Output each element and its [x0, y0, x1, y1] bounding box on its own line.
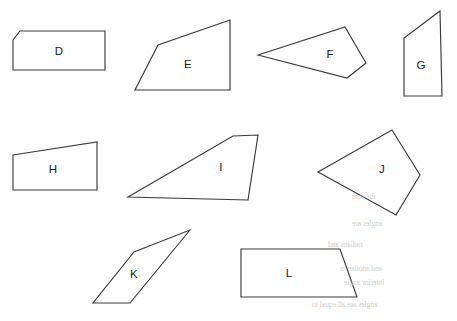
shape-f-label: F — [326, 48, 333, 60]
shape-j-outline[interactable] — [318, 130, 420, 215]
shape-j-label: J — [379, 163, 385, 175]
shape-g-label: G — [416, 59, 425, 71]
shape-g-outline[interactable] — [404, 11, 442, 96]
shape-group-d[interactable]: D — [13, 31, 105, 70]
shape-group-i[interactable]: I — [128, 135, 258, 200]
shape-group-k[interactable]: K — [93, 230, 190, 303]
shape-i-outline[interactable] — [128, 135, 258, 200]
shape-group-g[interactable]: G — [404, 11, 442, 96]
shape-h-label: H — [49, 163, 58, 175]
shape-group-j[interactable]: J — [318, 130, 420, 215]
shape-e-outline[interactable] — [135, 20, 230, 90]
shape-group-l[interactable]: L — [241, 249, 357, 297]
worksheet-page: D E F G H I J K — [0, 0, 457, 321]
shape-i-label: I — [219, 161, 222, 173]
shape-k-label: K — [130, 268, 138, 280]
shape-group-e[interactable]: E — [135, 20, 230, 90]
shape-k-outline[interactable] — [93, 230, 190, 303]
shape-f-outline[interactable] — [258, 27, 366, 78]
shape-l-outline[interactable] — [241, 249, 357, 297]
shape-canvas: D E F G H I J K — [0, 0, 457, 321]
shape-d-label: D — [55, 45, 64, 57]
shape-l-label: L — [286, 267, 293, 279]
shape-group-h[interactable]: H — [13, 142, 97, 190]
shape-e-label: E — [184, 58, 192, 70]
shape-group-f[interactable]: F — [258, 27, 366, 78]
